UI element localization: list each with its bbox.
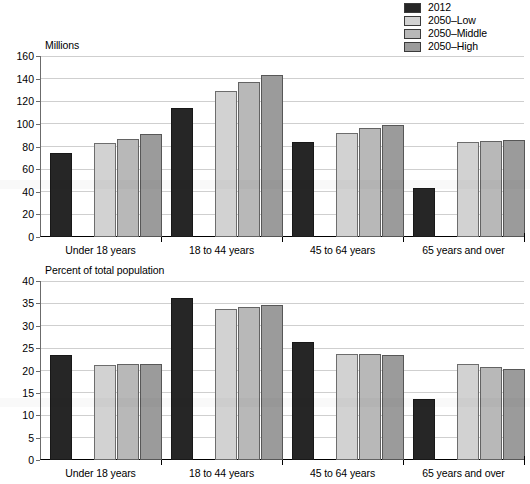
- y-axis-tick-mark: [36, 79, 40, 80]
- x-axis-category-label: 18 to 44 years: [161, 467, 282, 479]
- gridline: [41, 56, 524, 57]
- gridline: [41, 348, 524, 349]
- bar: [261, 305, 283, 460]
- bar: [117, 364, 139, 460]
- y-axis-tick-mark: [36, 192, 40, 193]
- y-axis-tick-label: 15: [0, 388, 34, 398]
- x-axis-category-label: 65 years and over: [403, 244, 524, 256]
- bar: [382, 355, 404, 460]
- bar: [140, 364, 162, 460]
- bar: [215, 91, 237, 237]
- x-axis-group-separator: [403, 460, 404, 465]
- y-axis-tick-mark: [36, 101, 40, 102]
- y-axis-tick-label: 100: [0, 119, 34, 129]
- bar: [359, 354, 381, 460]
- y-axis-tick-mark: [36, 56, 40, 57]
- y-axis-tick-mark: [36, 237, 40, 238]
- gridline: [41, 101, 524, 102]
- y-axis-tick-label: 10: [0, 410, 34, 420]
- gridline: [41, 281, 524, 282]
- y-axis-tick-label: 5: [0, 433, 34, 443]
- x-axis-group-separator: [282, 460, 283, 465]
- bar: [336, 354, 358, 460]
- y-axis-tick-mark: [36, 371, 40, 372]
- y-axis-tick-label: 80: [0, 142, 34, 152]
- bar: [382, 125, 404, 237]
- bar: [413, 399, 435, 460]
- y-axis-tick-label: 20: [0, 209, 34, 219]
- bar: [117, 139, 139, 237]
- plot-area-millions: [40, 56, 524, 237]
- plot-area-percent: [40, 281, 524, 460]
- chart-panel-millions: Millions 020406080100120140160Under 18 y…: [0, 0, 530, 258]
- bar: [336, 133, 358, 237]
- y-axis-tick-mark: [36, 147, 40, 148]
- y-axis-tick-label: 20: [0, 366, 34, 376]
- y-axis-tick-label: 40: [0, 187, 34, 197]
- x-axis-category-label: 18 to 44 years: [161, 244, 282, 256]
- chart-panel-percent: Percent of total population 051015202530…: [0, 258, 530, 484]
- y-axis-tick-label: 0: [0, 455, 34, 465]
- bar: [480, 367, 502, 460]
- bar: [292, 142, 314, 237]
- x-axis-group-separator: [161, 460, 162, 465]
- bar: [457, 364, 479, 460]
- bar: [503, 369, 525, 460]
- y-axis-tick-label: 60: [0, 164, 34, 174]
- bar: [171, 298, 193, 460]
- y-axis-tick-mark: [36, 438, 40, 439]
- bar: [238, 307, 260, 460]
- bar: [171, 108, 193, 237]
- bar: [140, 134, 162, 237]
- y-axis-tick-mark: [36, 281, 40, 282]
- y-axis-tick-mark: [36, 124, 40, 125]
- bar: [50, 355, 72, 460]
- gridline: [41, 123, 524, 124]
- y-axis-tick-mark: [36, 393, 40, 394]
- bar: [359, 128, 381, 237]
- figure-root: 20122050–Low2050–Middle2050–High Million…: [0, 0, 530, 484]
- y-axis-tick-label: 25: [0, 343, 34, 353]
- y-axis-tick-label: 160: [0, 51, 34, 61]
- x-axis-group-separator: [282, 237, 283, 242]
- bar: [503, 140, 525, 237]
- bar: [292, 342, 314, 460]
- bar: [50, 153, 72, 237]
- x-axis-group-separator: [161, 237, 162, 242]
- y-axis-tick-label: 30: [0, 321, 34, 331]
- bar: [94, 365, 116, 460]
- bar: [261, 75, 283, 237]
- panel-title-percent: Percent of total population: [45, 264, 164, 276]
- y-axis-tick-label: 120: [0, 96, 34, 106]
- gridline: [41, 78, 524, 79]
- bar: [413, 188, 435, 237]
- y-axis-tick-mark: [36, 169, 40, 170]
- y-axis-tick-label: 40: [0, 276, 34, 286]
- x-axis-category-label: Under 18 years: [40, 467, 161, 479]
- y-axis-tick-mark: [36, 460, 40, 461]
- y-axis-tick-label: 35: [0, 298, 34, 308]
- x-axis-end-tick: [524, 456, 525, 465]
- panel-title-millions: Millions: [45, 39, 79, 51]
- y-axis-tick-mark: [36, 214, 40, 215]
- y-axis-tick-label: 140: [0, 74, 34, 84]
- bar: [215, 309, 237, 460]
- y-axis-tick-label: 0: [0, 232, 34, 242]
- x-axis-end-tick: [524, 233, 525, 242]
- x-axis-category-label: Under 18 years: [40, 244, 161, 256]
- gridline: [41, 325, 524, 326]
- x-axis-group-separator: [403, 237, 404, 242]
- y-axis-tick-mark: [36, 303, 40, 304]
- bar: [238, 82, 260, 237]
- gridline: [41, 303, 524, 304]
- bar: [457, 142, 479, 237]
- x-axis-category-label: 45 to 64 years: [282, 467, 403, 479]
- bar: [94, 143, 116, 237]
- x-axis-category-label: 45 to 64 years: [282, 244, 403, 256]
- y-axis-tick-mark: [36, 348, 40, 349]
- bar: [480, 141, 502, 237]
- y-axis-tick-mark: [36, 326, 40, 327]
- y-axis-tick-mark: [36, 415, 40, 416]
- x-axis-category-label: 65 years and over: [403, 467, 524, 479]
